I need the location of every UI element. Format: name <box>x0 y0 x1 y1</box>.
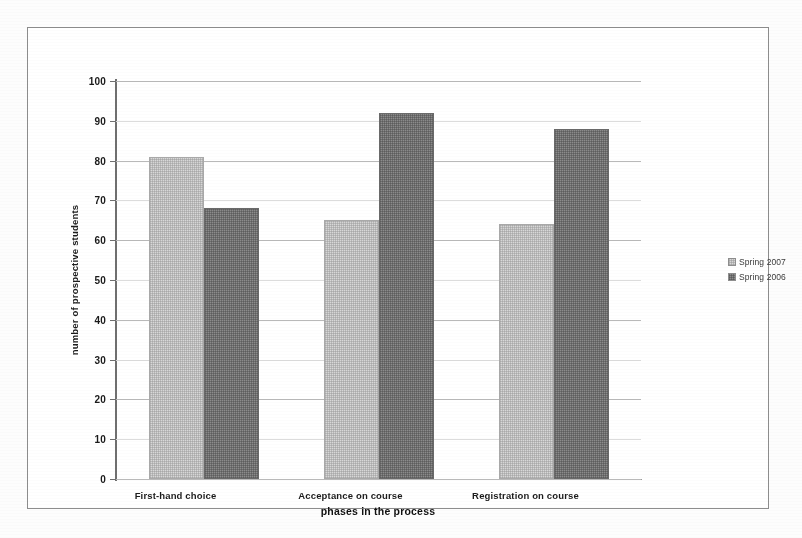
y-tick-label-60: 60 <box>94 235 106 246</box>
y-tick-70 <box>110 200 116 201</box>
legend-label-series-0: Spring 2007 <box>739 257 786 267</box>
y-tick-0 <box>110 479 116 480</box>
y-axis-title: number of prospective students <box>69 205 80 356</box>
y-tick-label-10: 10 <box>94 434 106 445</box>
y-tick-100 <box>110 81 116 82</box>
y-tick-90 <box>110 121 116 122</box>
legend-swatch-series-1-icon <box>728 273 736 281</box>
y-tick-label-80: 80 <box>94 155 106 166</box>
scanned-page: number of prospective students 010203040… <box>0 0 802 538</box>
y-tick-40 <box>110 320 116 321</box>
bar-2-1 <box>554 129 609 479</box>
bar-1-0 <box>324 220 379 479</box>
x-tick-label-acceptance-on-course: Acceptance on course <box>298 490 402 501</box>
x-axis-title: phases in the process <box>321 505 436 517</box>
x-tick-label-registration-on-course: Registration on course <box>472 490 579 501</box>
y-tick-60 <box>110 240 116 241</box>
x-tick-label-first-hand-choice: First-hand choice <box>135 490 217 501</box>
y-tick-label-0: 0 <box>100 474 106 485</box>
gridline-0 <box>116 479 641 480</box>
bar-0-1 <box>204 208 259 479</box>
chart-frame: number of prospective students 010203040… <box>27 27 769 509</box>
y-tick-label-30: 30 <box>94 354 106 365</box>
y-tick-80 <box>110 161 116 162</box>
plot-area: 0102030405060708090100 <box>116 81 641 479</box>
y-tick-label-50: 50 <box>94 275 106 286</box>
y-tick-label-100: 100 <box>89 76 106 87</box>
bar-0-0 <box>149 157 204 479</box>
legend-item-spring-2007: Spring 2007 <box>728 254 800 269</box>
y-tick-50 <box>110 280 116 281</box>
y-tick-label-20: 20 <box>94 394 106 405</box>
gridline-100 <box>116 81 641 82</box>
y-tick-label-70: 70 <box>94 195 106 206</box>
y-tick-label-90: 90 <box>94 115 106 126</box>
y-tick-30 <box>110 360 116 361</box>
y-tick-20 <box>110 399 116 400</box>
bar-1-1 <box>379 113 434 479</box>
bar-2-0 <box>499 224 554 479</box>
legend-label-series-1: Spring 2006 <box>739 272 786 282</box>
legend-item-spring-2006: Spring 2006 <box>728 269 800 284</box>
legend-swatch-series-0-icon <box>728 258 736 266</box>
chart-legend: Spring 2007 Spring 2006 <box>728 254 800 284</box>
y-tick-10 <box>110 439 116 440</box>
y-tick-label-40: 40 <box>94 314 106 325</box>
